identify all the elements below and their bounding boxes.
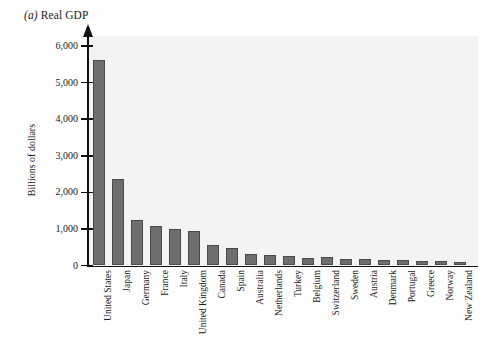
x-axis-label-text: Belgium — [312, 270, 322, 303]
y-tick-label: 0 — [32, 260, 78, 271]
y-tick-mark — [81, 228, 93, 230]
x-axis-label: Belgium — [312, 237, 322, 270]
y-tick-mark — [81, 45, 93, 47]
x-axis-label-text: United Kingdom — [198, 270, 208, 334]
x-axis-label: Sweden — [350, 240, 360, 270]
x-axis-label-text: Switzerland — [331, 270, 341, 315]
y-tick-label: 2,000 — [32, 186, 78, 197]
x-axis-label: Germany — [141, 235, 151, 270]
y-tick-mark — [81, 82, 93, 84]
y-tick-label-wrap: 5,000 — [28, 77, 78, 89]
y-tick-label-wrap: 2,000 — [28, 186, 78, 198]
x-axis-label: Canada — [217, 242, 227, 271]
x-axis-label: Japan — [122, 248, 132, 270]
x-axis-label-text: Canada — [217, 270, 227, 299]
y-tick-mark — [81, 192, 93, 194]
x-axis-label: Netherlands — [274, 224, 284, 270]
y-tick-label-wrap: 6,000 — [28, 40, 78, 52]
x-axis-label: Denmark — [388, 235, 398, 270]
x-axis-label: United Kingdom — [198, 206, 208, 270]
x-axis-label-text: Spain — [236, 270, 246, 292]
x-axis-label: Switzerland — [331, 225, 341, 270]
x-axis-label-text: Norway — [445, 270, 455, 301]
x-axis-label: Portugal — [407, 238, 417, 270]
panel-title: (a) Real GDP — [24, 9, 88, 21]
x-axis-label-text: Japan — [122, 270, 132, 292]
x-axis-label: New Zealand — [464, 219, 474, 270]
x-axis-label-text: Austria — [369, 270, 379, 298]
x-axis-label-text: Turkey — [293, 270, 303, 297]
x-axis-label-text: Australia — [255, 270, 265, 305]
x-axis-label: France — [160, 244, 170, 270]
x-axis-label: Norway — [445, 239, 455, 270]
x-axis-label-text: New Zealand — [464, 270, 474, 321]
x-axis-label: Austria — [369, 242, 379, 270]
x-axis-label-text: Netherlands — [274, 270, 284, 316]
y-tick-label: 5,000 — [32, 77, 78, 88]
x-axis-label-text: France — [160, 270, 170, 296]
x-axis-label: Italy — [179, 253, 189, 270]
x-axis-label: Turkey — [293, 243, 303, 270]
y-tick-label-wrap: 1,000 — [28, 223, 78, 235]
x-axis-label-text: Sweden — [350, 270, 360, 300]
y-tick-label-wrap: 3,000 — [28, 150, 78, 162]
y-tick-label: 1,000 — [32, 223, 78, 234]
y-axis-arrow-icon — [83, 24, 93, 37]
x-axis-label: United States — [103, 219, 113, 270]
x-axis-label-text: United States — [103, 270, 113, 321]
x-axis-label-text: Germany — [141, 270, 151, 305]
x-axis-label-text: Portugal — [407, 270, 417, 302]
y-tick-label: 4,000 — [32, 113, 78, 124]
y-tick-label: 3,000 — [32, 150, 78, 161]
x-axis-label-text: Italy — [179, 270, 189, 287]
y-tick-label: 6,000 — [32, 40, 78, 51]
y-tick-mark — [81, 155, 93, 157]
y-axis-line — [87, 36, 89, 266]
y-tick-label-wrap: 0 — [28, 260, 78, 272]
x-axis-label-text: Denmark — [388, 270, 398, 305]
panel-title-text: Real GDP — [41, 9, 89, 21]
figure-real-gdp: (a) Real GDP Billions of dollars 01,0002… — [0, 0, 487, 361]
y-tick-mark — [81, 265, 93, 267]
y-tick-label-wrap: 4,000 — [28, 113, 78, 125]
x-axis-label: Greece — [426, 243, 436, 270]
x-axis-label: Australia — [255, 235, 265, 270]
y-tick-mark — [81, 118, 93, 120]
x-axis-label: Spain — [236, 248, 246, 270]
x-axis-label-text: Greece — [426, 270, 436, 297]
